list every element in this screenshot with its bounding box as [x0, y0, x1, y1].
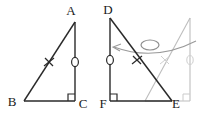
right-angle-marker-C	[68, 94, 75, 101]
vertex-label-D: D	[103, 2, 112, 17]
right-triangle	[107, 18, 172, 101]
vertex-label-A: A	[66, 3, 76, 18]
ghost-hypotenuse	[145, 18, 190, 101]
right-angle-marker-F	[110, 94, 117, 101]
vertex-label-E: E	[172, 96, 180, 111]
ghost-triangle	[145, 18, 193, 101]
segment-DE	[110, 18, 172, 101]
geometry-figure: A B C D F E	[0, 0, 206, 123]
rotation-arc-group	[113, 40, 196, 53]
vertex-label-B: B	[8, 94, 17, 109]
vertex-label-C: C	[79, 96, 88, 111]
circle-tick-icon-AC	[72, 57, 79, 66]
ghost-x-tick-icon	[160, 56, 170, 64]
ghost-right-angle-marker	[183, 94, 190, 101]
rotation-ellipse-marker-icon	[141, 40, 159, 50]
left-triangle	[24, 22, 78, 101]
circle-tick-icon-DF	[107, 55, 114, 64]
vertex-label-F: F	[99, 96, 106, 111]
x-tick-icon-AB	[44, 58, 54, 66]
figure-canvas: A B C D F E	[0, 0, 206, 123]
rotation-arc-path	[114, 41, 196, 53]
